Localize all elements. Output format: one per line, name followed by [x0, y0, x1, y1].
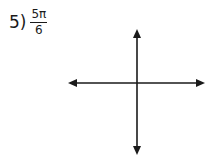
x-axis-left-arrow-icon: [68, 79, 77, 87]
y-axis-up-arrow-icon: [133, 29, 141, 38]
x-axis-right-arrow-icon: [196, 79, 205, 87]
coordinate-axes: [0, 0, 213, 158]
y-axis-down-arrow-icon: [133, 146, 141, 155]
